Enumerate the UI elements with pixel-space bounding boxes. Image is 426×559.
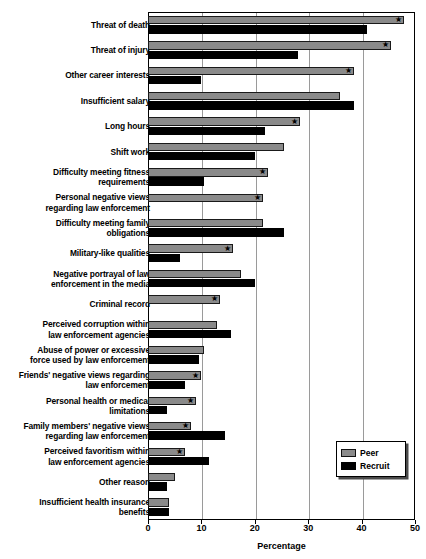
row-bars xyxy=(148,215,415,240)
significance-star-icon: ★ xyxy=(259,168,266,176)
axis-tick-label: 30 xyxy=(303,523,313,533)
significance-star-icon: ★ xyxy=(254,194,261,202)
axis-tick-label: 20 xyxy=(250,523,260,533)
category-label: Negative portrayal of law enforcement in… xyxy=(0,268,150,288)
bar-recruit xyxy=(148,152,255,160)
significance-star-icon: ★ xyxy=(382,41,389,49)
row-bars: ★ xyxy=(148,190,415,215)
bar-recruit xyxy=(148,508,169,516)
bar-recruit xyxy=(148,51,298,59)
bar-peer xyxy=(148,498,169,506)
bar-peer xyxy=(148,92,340,100)
x-axis: 01020304050 xyxy=(148,520,415,534)
axis-tick-label: 50 xyxy=(410,523,420,533)
row-bars xyxy=(148,88,415,113)
bar-peer xyxy=(148,321,217,329)
category-label: Shift work xyxy=(0,147,150,157)
bar-peer: ★ xyxy=(148,41,391,49)
category-label: Perceived corruption within law enforcem… xyxy=(0,319,150,339)
chart-row: Threat of death★ xyxy=(0,12,426,37)
legend-item-peer: Peer xyxy=(341,446,400,459)
chart-row: Threat of injury★ xyxy=(0,37,426,62)
category-label: Difficulty meeting fitness requirements xyxy=(0,167,150,187)
bar-peer: ★ xyxy=(148,397,196,405)
row-bars: ★ xyxy=(148,418,415,443)
chart-legend: Peer Recruit xyxy=(336,441,406,477)
chart-row: Other career interests★ xyxy=(0,63,426,88)
bar-peer xyxy=(148,143,284,151)
bar-peer xyxy=(148,270,241,278)
chart-row: Perceived corruption within law enforcem… xyxy=(0,317,426,342)
bar-peer: ★ xyxy=(148,295,220,303)
bar-recruit xyxy=(148,76,201,84)
bar-recruit xyxy=(148,101,354,109)
bar-recruit xyxy=(148,177,204,185)
category-label: Difficulty meeting family obligations xyxy=(0,218,150,238)
chart-row: Negative portrayal of law enforcement in… xyxy=(0,266,426,291)
bar-recruit xyxy=(148,381,185,389)
bar-peer: ★ xyxy=(148,16,404,24)
bar-recruit xyxy=(148,228,284,236)
category-label: Friends' negative views regarding law en… xyxy=(0,370,150,390)
bar-recruit xyxy=(148,355,199,363)
bar-peer xyxy=(148,346,204,354)
chart-row: Abuse of power or excessive force used b… xyxy=(0,342,426,367)
bar-peer: ★ xyxy=(148,244,233,252)
bar-recruit xyxy=(148,406,167,414)
category-label: Family members' negative views regarding… xyxy=(0,421,150,441)
bar-recruit xyxy=(148,330,231,338)
category-label: Threat of death xyxy=(0,20,150,30)
chart-row: Family members' negative views regarding… xyxy=(0,418,426,443)
category-label: Threat of injury xyxy=(0,45,150,55)
row-bars xyxy=(148,139,415,164)
category-label: Personal health or medical limitations xyxy=(0,395,150,415)
significance-star-icon: ★ xyxy=(345,67,352,75)
significance-star-icon: ★ xyxy=(291,117,298,125)
row-bars: ★ xyxy=(148,63,415,88)
bar-peer: ★ xyxy=(148,67,354,75)
row-bars: ★ xyxy=(148,114,415,139)
significance-star-icon: ★ xyxy=(192,371,199,379)
bar-recruit xyxy=(148,127,265,135)
legend-label-recruit: Recruit xyxy=(360,461,390,471)
significance-star-icon: ★ xyxy=(395,16,402,24)
axis-tick-label: 0 xyxy=(145,523,150,533)
chart-row: Difficulty meeting fitness requirements★ xyxy=(0,164,426,189)
legend-label-peer: Peer xyxy=(360,448,379,458)
chart-row: Personal negative views regarding law en… xyxy=(0,190,426,215)
significance-star-icon: ★ xyxy=(187,397,194,405)
bar-peer xyxy=(148,219,263,227)
row-bars: ★ xyxy=(148,241,415,266)
bar-recruit xyxy=(148,279,255,287)
category-label: Insufficient salary xyxy=(0,96,150,106)
category-label: Other reason xyxy=(0,477,150,487)
chart-row: Shift work xyxy=(0,139,426,164)
bar-peer: ★ xyxy=(148,422,191,430)
row-bars xyxy=(148,317,415,342)
category-label: Military-like qualities xyxy=(0,248,150,258)
chart-row: Insufficient salary xyxy=(0,88,426,113)
row-bars xyxy=(148,342,415,367)
chart-row: Criminal record★ xyxy=(0,291,426,316)
axis-tick-label: 10 xyxy=(196,523,206,533)
legend-item-recruit: Recruit xyxy=(341,459,400,472)
bar-recruit xyxy=(148,254,180,262)
significance-star-icon: ★ xyxy=(182,422,189,430)
significance-star-icon: ★ xyxy=(211,295,218,303)
axis-tick-label: 40 xyxy=(357,523,367,533)
bar-peer: ★ xyxy=(148,448,185,456)
category-label: Abuse of power or excessive force used b… xyxy=(0,345,150,365)
bar-peer: ★ xyxy=(148,168,268,176)
chart-container: Threat of death★Threat of injury★Other c… xyxy=(0,0,426,559)
bar-recruit xyxy=(148,457,209,465)
legend-swatch-recruit-icon xyxy=(341,462,356,470)
chart-row: Long hours★ xyxy=(0,114,426,139)
bar-recruit xyxy=(148,482,167,490)
chart-row: Friends' negative views regarding law en… xyxy=(0,367,426,392)
bar-peer: ★ xyxy=(148,117,300,125)
row-bars: ★ xyxy=(148,367,415,392)
chart-row: Military-like qualities★ xyxy=(0,241,426,266)
x-axis-title: Percentage xyxy=(148,541,415,551)
bar-peer xyxy=(148,473,175,481)
category-label: Perceived favoritism within law enforcem… xyxy=(0,446,150,466)
